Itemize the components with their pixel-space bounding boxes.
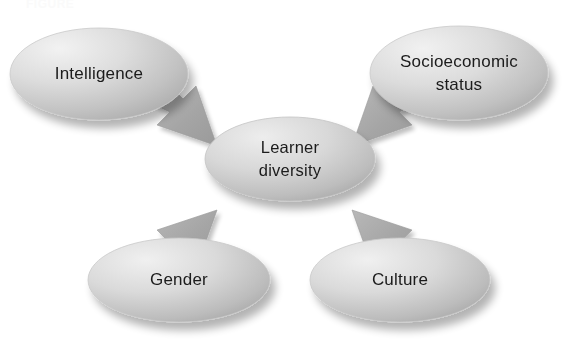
node-learner-diversity[interactable]: Learner diversity [205, 117, 375, 201]
node-socioeconomic-status-label-line1: Socioeconomic [400, 52, 518, 71]
node-learner-diversity-label-line2: diversity [259, 161, 322, 179]
node-socioeconomic-status[interactable]: Socioeconomic status [370, 26, 548, 120]
node-gender-label: Gender [150, 270, 208, 289]
node-learner-diversity-shape [205, 117, 375, 201]
node-culture-label: Culture [372, 270, 428, 289]
node-socioeconomic-status-shape [370, 26, 548, 120]
node-intelligence[interactable]: Intelligence [10, 28, 188, 120]
node-learner-diversity-label-line1: Learner [261, 138, 320, 156]
node-socioeconomic-status-label-line2: status [436, 75, 483, 94]
node-gender[interactable]: Gender [88, 238, 270, 322]
node-culture[interactable]: Culture [310, 238, 490, 322]
node-intelligence-label: Intelligence [55, 64, 143, 83]
learner-diversity-diagram: Intelligence Socioeconomic status Gender… [0, 0, 569, 352]
diagram-canvas: FIGURE [0, 0, 569, 352]
